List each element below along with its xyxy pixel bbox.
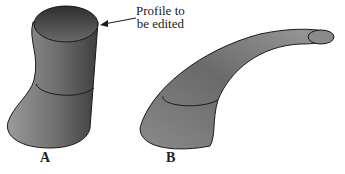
callout-line-2: be edited [136, 17, 185, 30]
figure-canvas: Profile to be edited A B [0, 0, 345, 174]
label-b: B [166, 150, 175, 166]
shape-a [7, 6, 98, 148]
label-a: A [40, 150, 50, 166]
shape-b [140, 29, 334, 149]
callout-arrow [100, 18, 136, 27]
callout-text: Profile to be edited [136, 4, 185, 30]
